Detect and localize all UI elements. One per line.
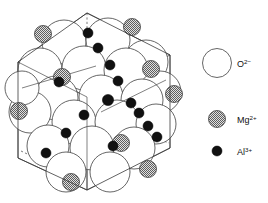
aluminium-atom xyxy=(113,76,123,86)
aluminium-atom xyxy=(79,110,89,120)
aluminium-atom xyxy=(143,121,153,131)
legend-symbol-magnesium: Mg xyxy=(237,115,250,125)
legend-label-oxygen: O2− xyxy=(237,58,251,70)
aluminium-atom xyxy=(105,60,115,70)
legend-charge-aluminium: 3+ xyxy=(245,146,252,153)
crystal-structure-figure: O2− Mg2+ Al3+ xyxy=(0,0,268,203)
aluminium-atom xyxy=(152,132,162,142)
magnesium-atom xyxy=(143,61,160,78)
magnesium-atom xyxy=(11,103,28,120)
aluminium-atom xyxy=(61,128,71,138)
magnesium-atom xyxy=(140,161,157,178)
legend-symbol-oxygen: O xyxy=(237,59,244,69)
oxygen-legend-marker-icon xyxy=(203,49,232,78)
legend-charge-magnesium: 2+ xyxy=(250,114,257,121)
magnesium-legend-marker-icon xyxy=(209,111,226,128)
unit-cell-diagram xyxy=(0,0,190,203)
legend: O2− Mg2+ Al3+ xyxy=(190,0,268,203)
aluminium-atom xyxy=(134,108,144,118)
legend-symbol-aluminium: Al xyxy=(237,147,245,157)
legend-label-magnesium: Mg2+ xyxy=(237,114,257,126)
magnesium-atom xyxy=(63,174,80,191)
aluminium-atom xyxy=(54,77,64,87)
aluminium-atom xyxy=(93,43,103,53)
legend-label-aluminium: Al3+ xyxy=(237,146,252,158)
aluminium-atom xyxy=(102,94,113,105)
aluminium-legend-marker-icon xyxy=(212,146,222,156)
aluminium-atom xyxy=(83,28,93,38)
aluminium-atom xyxy=(41,148,51,158)
aluminium-atom xyxy=(126,98,136,108)
legend-item-aluminium: Al3+ xyxy=(212,146,252,158)
aluminium-atom xyxy=(108,141,118,151)
legend-item-oxygen: O2− xyxy=(203,49,252,78)
legend-item-magnesium: Mg2+ xyxy=(209,111,257,128)
oxygen-atom xyxy=(90,152,130,192)
legend-charge-oxygen: 2− xyxy=(244,58,251,65)
magnesium-atom xyxy=(166,86,183,103)
